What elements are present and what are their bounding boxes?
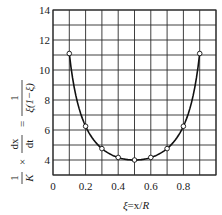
y-tick-label: 12	[39, 34, 50, 46]
x-tick-label: 0.8	[177, 180, 191, 192]
svg-text:1: 1	[8, 95, 20, 101]
data-point-marker	[181, 124, 186, 129]
y-tick-label: 4	[45, 154, 51, 166]
svg-text:dt: dt	[23, 140, 35, 149]
y-axis-label: 1 K × dx dt = 1 ξ(1−ξ)	[8, 80, 36, 184]
data-point-marker	[197, 51, 202, 56]
y-tick-label: 14	[39, 4, 51, 16]
data-point-marker	[132, 158, 137, 163]
x-axis-ticks: 00.20.40.60.8	[50, 180, 191, 192]
data-point-marker	[116, 155, 121, 160]
y-tick-label: 8	[45, 94, 51, 106]
svg-text:=: =	[16, 121, 28, 127]
x-tick-label: 0.6	[144, 180, 158, 192]
grid-lines	[53, 10, 216, 175]
svg-text:1: 1	[8, 175, 20, 181]
x-tick-label: 0	[50, 180, 56, 192]
data-point-marker	[100, 146, 105, 151]
data-point-marker	[149, 155, 154, 160]
y-tick-label: 10	[39, 64, 51, 76]
data-point-marker	[67, 51, 72, 56]
y-axis-ticks: 468101214	[39, 4, 51, 166]
y-tick-label: 6	[45, 124, 51, 136]
data-point-marker	[165, 146, 170, 151]
svg-text:dx: dx	[8, 138, 20, 150]
chart: 468101214 00.20.40.60.8 ξ=x/R 1 K × dx d…	[0, 0, 222, 215]
x-axis-label: ξ=x/R	[123, 199, 149, 212]
svg-text:×: ×	[16, 159, 28, 165]
svg-text:ξ(1−ξ): ξ(1−ξ)	[23, 83, 36, 113]
data-point-marker	[83, 124, 88, 129]
svg-text:K: K	[23, 174, 35, 183]
x-tick-label: 0.4	[111, 180, 125, 192]
x-tick-label: 0.2	[79, 180, 93, 192]
